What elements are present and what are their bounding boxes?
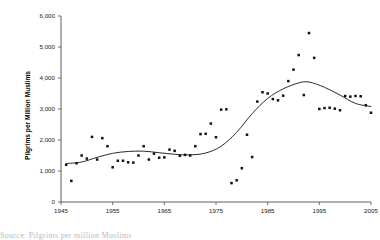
data-point — [80, 154, 83, 157]
data-point — [70, 180, 73, 183]
data-point — [272, 98, 275, 101]
data-point — [122, 160, 125, 163]
data-point — [137, 154, 140, 157]
x-axis-ticks: 1945195519651975198519952005 — [54, 202, 378, 214]
x-tick-label: 1955 — [106, 207, 120, 214]
data-point — [303, 94, 306, 97]
data-point — [142, 145, 145, 148]
pilgrims-scatter-chart: Pilgrims per Million Muslims 01,0002,000… — [0, 0, 380, 240]
data-point — [344, 95, 347, 98]
data-point — [184, 154, 187, 157]
data-point — [246, 133, 249, 136]
data-point — [365, 104, 368, 107]
data-point — [163, 156, 166, 159]
y-axis-title-group: Pilgrims per Million Muslims — [24, 71, 32, 160]
data-point — [292, 68, 295, 71]
y-tick-label: 6,000 — [40, 12, 56, 19]
y-tick-label: 5,000 — [40, 43, 56, 50]
data-point — [241, 167, 244, 170]
data-point — [349, 95, 352, 98]
x-tick-label: 2005 — [364, 207, 378, 214]
y-axis-title: Pilgrims per Million Muslims — [24, 71, 32, 160]
data-point — [158, 156, 161, 159]
data-point — [287, 80, 290, 83]
x-tick-label: 1975 — [209, 207, 223, 214]
data-point — [370, 111, 373, 114]
y-tick-label: 1,000 — [40, 167, 56, 174]
data-point — [297, 54, 300, 57]
trend-curve — [66, 82, 371, 164]
data-point — [225, 108, 228, 111]
data-point — [148, 158, 151, 161]
data-point — [96, 158, 99, 161]
data-point — [282, 94, 285, 97]
data-point — [86, 157, 89, 160]
data-point — [354, 95, 357, 98]
data-point — [256, 100, 259, 103]
data-point — [179, 155, 182, 158]
chart-figure: Pilgrims per Million Muslims 01,0002,000… — [0, 0, 380, 240]
y-tick-label: 2,000 — [40, 136, 56, 143]
cropped-caption-sliver: Source: Pilgrims per million Muslims — [0, 231, 380, 240]
data-point — [75, 162, 78, 165]
y-tick-label: 3,000 — [40, 105, 56, 112]
y-tick-label: 0 — [52, 198, 56, 205]
data-point — [323, 107, 326, 110]
x-tick-label: 1995 — [312, 207, 326, 214]
data-point — [230, 182, 233, 185]
data-point — [173, 150, 176, 153]
data-point — [277, 99, 280, 102]
data-point — [313, 57, 316, 60]
data-point — [153, 152, 156, 155]
data-point — [359, 95, 362, 98]
data-point — [215, 136, 218, 139]
x-tick-label: 1965 — [157, 207, 171, 214]
x-tick-label: 1945 — [54, 207, 68, 214]
y-axis-ticks: 01,0002,0003,0004,0005,0006,000 — [40, 12, 61, 205]
data-point — [132, 161, 135, 164]
data-point — [101, 137, 104, 140]
x-tick-label: 1985 — [261, 207, 275, 214]
data-point — [261, 91, 264, 94]
data-point — [328, 107, 331, 110]
data-point — [266, 92, 269, 95]
data-point — [194, 145, 197, 148]
data-point — [111, 166, 114, 169]
data-point — [339, 109, 342, 112]
data-point — [127, 161, 129, 164]
data-point — [235, 179, 238, 182]
data-point — [168, 148, 171, 151]
data-point — [210, 122, 213, 125]
data-point — [308, 32, 311, 35]
data-point — [189, 154, 192, 157]
data-point — [199, 133, 202, 136]
y-tick-label: 4,000 — [40, 74, 56, 81]
data-point — [251, 156, 254, 159]
data-point — [318, 108, 321, 111]
data-point — [106, 145, 109, 148]
data-point — [91, 136, 94, 139]
data-point — [65, 164, 68, 167]
scatter-points-group — [65, 32, 372, 185]
data-point — [204, 133, 207, 136]
data-point — [220, 108, 223, 111]
data-point — [334, 107, 337, 110]
data-point — [117, 160, 120, 163]
